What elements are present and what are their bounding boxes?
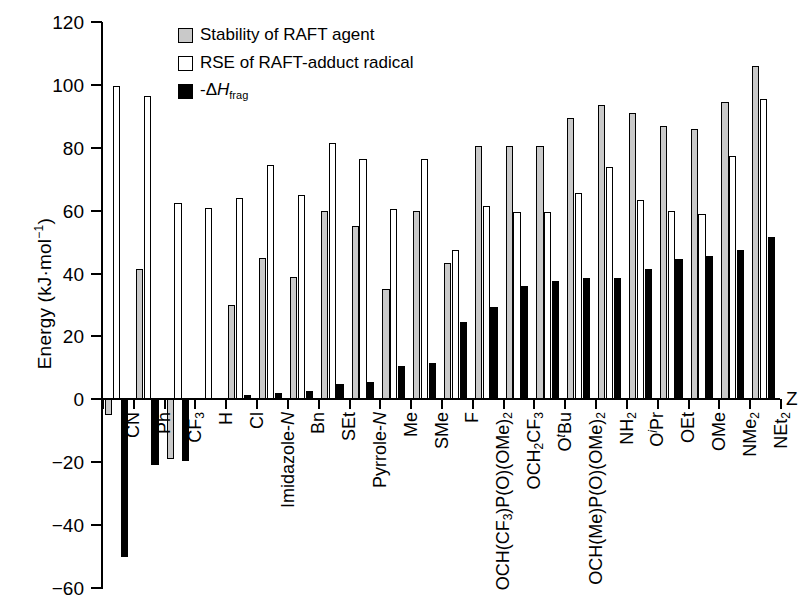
bar-black: [398, 366, 405, 399]
x-tick: [102, 399, 104, 409]
bar-gray: [136, 269, 143, 399]
x-tick-label: NMe2: [740, 412, 761, 457]
bar-gray: [444, 263, 451, 400]
legend-label: RSE of RAFT-adduct radical: [200, 53, 414, 73]
bar-gray: [752, 66, 759, 399]
bar-white: [452, 250, 459, 399]
x-tick-label: CF3: [185, 412, 206, 443]
legend-item: Stability of RAFT agent: [178, 22, 414, 48]
x-tick-label: Imidazole-N: [278, 412, 299, 508]
bar-white: [329, 143, 336, 399]
bar-white: [236, 198, 243, 399]
bar-black: [429, 363, 436, 399]
bar-white: [174, 203, 181, 400]
x-tick-label: NEt2: [771, 412, 792, 449]
bar-white: [205, 208, 212, 400]
x-tick-label: F: [462, 412, 483, 423]
bar-white: [668, 211, 675, 400]
bar-black: [552, 281, 559, 399]
bar-white: [637, 200, 644, 400]
x-tick: [194, 399, 196, 409]
bar-black: [336, 384, 343, 400]
bar-gray: [536, 146, 543, 399]
bar-black: [737, 250, 744, 399]
bar-gray: [382, 289, 389, 399]
bar-white: [606, 167, 613, 400]
bar-white: [298, 195, 305, 399]
bar-white: [359, 159, 366, 400]
bar-gray: [629, 113, 636, 399]
x-tick: [564, 399, 566, 409]
bar-gray: [259, 258, 266, 400]
bar-white: [113, 86, 120, 399]
y-tick: [91, 21, 102, 23]
y-tick-label: 40: [0, 264, 84, 283]
y-tick-label: 100: [0, 75, 84, 94]
bar-black: [675, 259, 682, 399]
x-tick: [780, 399, 782, 409]
bar-gray: [660, 126, 667, 400]
bar-white: [144, 96, 151, 399]
bar-black: [645, 269, 652, 399]
x-tick-label: Cl: [247, 412, 268, 429]
bar-gray: [691, 129, 698, 399]
x-tick: [657, 399, 659, 409]
bar-gray: [506, 146, 513, 399]
y-tick-label: −20: [0, 453, 84, 472]
bar-gray: [721, 102, 728, 399]
x-tick: [225, 399, 227, 409]
x-tick: [349, 399, 351, 409]
y-tick: [91, 84, 102, 86]
x-tick-label: CN: [123, 412, 144, 438]
bar-black: [583, 278, 590, 399]
x-axis-title: Z: [786, 388, 798, 410]
bar-gray: [413, 211, 420, 400]
x-tick: [533, 399, 535, 409]
chart-root: Energy (kJ·mol−1) 120100806040200−20−40−…: [0, 0, 804, 612]
y-tick-label: 0: [0, 390, 84, 409]
legend-swatch-gray: [178, 28, 193, 43]
x-tick: [472, 399, 474, 409]
legend-item: RSE of RAFT-adduct radical: [178, 50, 414, 76]
x-tick: [718, 399, 720, 409]
x-tick: [287, 399, 289, 409]
y-tick-label: 120: [0, 13, 84, 32]
x-tick: [595, 399, 597, 409]
bar-gray: [352, 226, 359, 399]
bar-black: [460, 322, 467, 399]
y-tick-label: 20: [0, 327, 84, 346]
y-tick-label: −60: [0, 579, 84, 598]
x-tick-label: NH2: [617, 412, 638, 445]
bar-gray: [598, 105, 605, 399]
bar-black: [768, 237, 775, 399]
bar-white: [729, 156, 736, 400]
bar-black: [244, 395, 251, 400]
x-tick-label: Bn: [308, 412, 329, 434]
x-tick: [441, 399, 443, 409]
x-tick-label: OCH(Me)P(O)(OMe)2: [586, 412, 607, 585]
y-tick: [91, 335, 102, 337]
x-tick: [688, 399, 690, 409]
bar-white: [698, 214, 705, 400]
y-tick-label: 60: [0, 201, 84, 220]
bar-gray: [475, 146, 482, 399]
x-tick-label: OMe: [709, 412, 730, 451]
x-tick-label: Me: [401, 412, 422, 437]
x-tick-label: OCH(CF3)P(O)(OMe)2: [493, 412, 514, 590]
legend-swatch-white: [178, 56, 193, 71]
x-tick: [503, 399, 505, 409]
x-tick-label: OEt: [678, 412, 699, 443]
bar-black: [706, 256, 713, 399]
bar-black: [490, 307, 497, 400]
bar-black: [521, 286, 528, 399]
x-tick-label: SMe: [432, 412, 453, 449]
x-tick: [379, 399, 381, 409]
x-tick-label: OiPr: [647, 412, 668, 447]
bar-gray: [567, 118, 574, 399]
bar-white: [513, 212, 520, 399]
x-tick: [256, 399, 258, 409]
y-tick: [91, 461, 102, 463]
bar-black: [614, 278, 621, 399]
x-tick-label: Pyrrole-N: [370, 412, 391, 488]
legend-label: -ΔHfrag: [200, 80, 248, 101]
